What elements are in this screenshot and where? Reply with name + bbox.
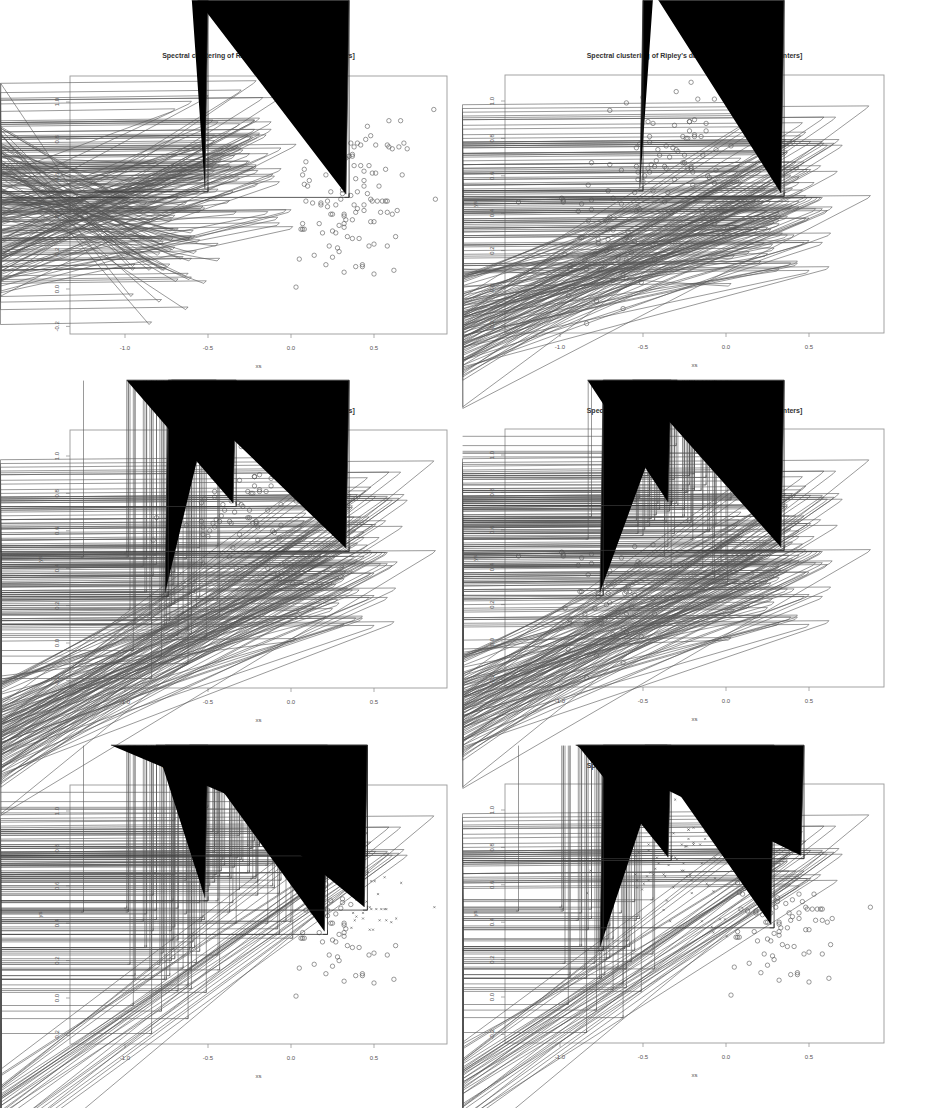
data-points bbox=[463, 80, 871, 408]
x-tick-label: 0.5 bbox=[370, 1055, 379, 1061]
data-points bbox=[1, 746, 436, 1108]
y-tick-label: 0.2 bbox=[54, 956, 60, 965]
x-tick-label: 0.0 bbox=[722, 1054, 731, 1060]
x-tick-label: 0.5 bbox=[805, 698, 814, 704]
data-points bbox=[1, 81, 438, 325]
x-tick-label: -0.5 bbox=[203, 699, 214, 705]
y-tick-label: 0.2 bbox=[489, 955, 495, 964]
y-tick-label: 0.0 bbox=[54, 993, 60, 1002]
x-tick-label: 0.0 bbox=[287, 1055, 296, 1061]
x-tick-label: 0.5 bbox=[370, 699, 379, 705]
cluster-centers bbox=[1, 745, 368, 934]
y-tick-label: -0.2 bbox=[54, 321, 60, 332]
scatter-panel-3: Spectral clustering of Ripley's data[RBF… bbox=[0, 380, 462, 760]
x-axis-label: xs bbox=[256, 717, 262, 723]
x-tick-label: -1.0 bbox=[555, 1054, 566, 1060]
scatter-panel-4: Spectral clustering of Ripley's data[Pol… bbox=[462, 380, 925, 760]
scatter-panel-6: Spectral clustering of Ripley's data[Pol… bbox=[462, 745, 925, 1108]
scatter-panel-1: Spectral clustering of Ripley's data[RBF… bbox=[0, 0, 462, 380]
x-tick-label: -0.5 bbox=[638, 344, 649, 350]
x-tick-label: -1.0 bbox=[120, 345, 131, 351]
x-tick-label: 0.5 bbox=[805, 1054, 814, 1060]
x-tick-label: 0.0 bbox=[722, 344, 731, 350]
x-axis-label: xs bbox=[692, 1072, 698, 1078]
x-axis-label: xs bbox=[692, 716, 698, 722]
y-tick-label: 0.0 bbox=[54, 284, 60, 293]
y-axis-label: ys bbox=[472, 911, 478, 917]
y-axis-label: ys bbox=[37, 912, 43, 918]
x-tick-label: -0.5 bbox=[203, 345, 214, 351]
x-tick-label: -1.0 bbox=[555, 344, 566, 350]
y-tick-label: 0.6 bbox=[489, 171, 495, 180]
x-axis-label: xs bbox=[256, 363, 262, 369]
y-tick-label: 0.0 bbox=[489, 992, 495, 1001]
x-tick-label: 0.5 bbox=[805, 344, 814, 350]
y-tick-label: 1.0 bbox=[489, 96, 495, 105]
x-tick-label: 0.0 bbox=[722, 698, 731, 704]
x-tick-label: -0.5 bbox=[203, 1055, 214, 1061]
x-axis-label: xs bbox=[256, 1073, 262, 1079]
scatter-panel-5: Spectral clustering of Ripley's data[RBF… bbox=[0, 745, 462, 1108]
scatter-panel-2: Spectral clustering of Ripley's data[Pol… bbox=[462, 0, 925, 380]
y-tick-label: 1.0 bbox=[489, 805, 495, 814]
x-tick-label: -0.5 bbox=[638, 1054, 649, 1060]
y-tick-label: 1.0 bbox=[54, 97, 60, 106]
x-axis-label: xs bbox=[692, 362, 698, 368]
x-tick-label: 0.5 bbox=[370, 345, 379, 351]
x-tick-label: 0.0 bbox=[287, 345, 296, 351]
y-tick-label: 0.6 bbox=[54, 526, 60, 535]
x-tick-label: 0.0 bbox=[287, 699, 296, 705]
cluster-centers bbox=[463, 745, 805, 950]
y-tick-label: 0.0 bbox=[54, 638, 60, 647]
y-tick-label: 0.6 bbox=[489, 880, 495, 889]
y-tick-label: 1.0 bbox=[54, 451, 60, 460]
x-tick-label: -0.5 bbox=[638, 698, 649, 704]
